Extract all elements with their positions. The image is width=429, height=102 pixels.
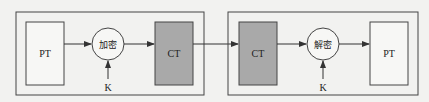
ciphertext-label-right: CT xyxy=(252,48,265,59)
ciphertext-label-left: CT xyxy=(168,48,181,59)
encrypt-group: PT 加密 K CT xyxy=(16,12,204,95)
encryption-diagram: PT 加密 K CT CT 解密 K PT xyxy=(0,0,429,102)
key-label-left: K xyxy=(104,82,112,93)
key-label-right: K xyxy=(319,82,327,93)
decrypt-label: 解密 xyxy=(314,39,332,50)
plaintext-label-left: PT xyxy=(39,48,51,59)
decrypt-group: CT 解密 K PT xyxy=(228,12,418,95)
encrypt-label: 加密 xyxy=(99,39,117,50)
plaintext-label-right: PT xyxy=(383,48,395,59)
